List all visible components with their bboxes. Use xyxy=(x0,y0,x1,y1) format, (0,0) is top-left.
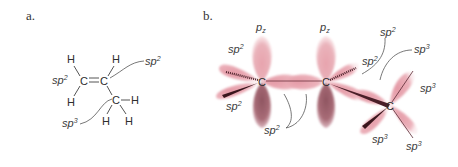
atom-h: H xyxy=(125,115,133,127)
atom-h: H xyxy=(131,94,139,106)
label-sp3-right: sp3 xyxy=(420,82,436,94)
panel-a: a. H H C C H C H H H xyxy=(26,8,161,129)
atom-h: H xyxy=(112,53,120,65)
leader-sp2-to-c2-lobe xyxy=(286,94,306,128)
label-sp3-top: sp3 xyxy=(414,43,430,55)
label-sp2-top-right: sp2 xyxy=(380,26,396,38)
label-sp2-top-left: sp2 xyxy=(228,43,244,55)
pz-lobe-bottom xyxy=(253,82,271,128)
label-sp3-bottom-left: sp3 xyxy=(372,133,388,145)
panel-b-label: b. xyxy=(203,8,213,23)
atom-c2: C xyxy=(100,75,108,87)
pz-lobe-bottom xyxy=(317,82,335,128)
bond-h-c2 xyxy=(108,66,114,76)
bond-c2-c3-wedge xyxy=(330,84,390,108)
atom-h: H xyxy=(67,96,75,108)
label-sp2-bottom-center: sp2 xyxy=(264,124,280,136)
bond-h-c1-bottom xyxy=(74,86,80,96)
sp2-lobe-left xyxy=(286,75,326,90)
label-pz-right: pz xyxy=(319,21,330,34)
label-pz-left: pz xyxy=(255,21,266,34)
panel-b: b. xyxy=(203,8,436,152)
label-sp2-right: sp2 xyxy=(145,55,161,67)
propene-hybridization-diagram: a. H H C C H C H H H xyxy=(0,0,458,167)
atom-c3: C xyxy=(112,94,120,106)
label-sp3: sp3 xyxy=(62,117,78,129)
bond-c3-h-bottom-left xyxy=(107,105,112,114)
bond-c3-h-bottom-right xyxy=(120,105,126,114)
label-sp2-bottom-left: sp2 xyxy=(226,100,242,112)
atom-c1: C xyxy=(258,76,266,88)
leader-sp2-to-c1-lobe xyxy=(284,94,291,128)
label-sp2-left: sp2 xyxy=(52,74,68,86)
atom-c3: C xyxy=(386,100,394,112)
atom-c1: C xyxy=(80,75,88,87)
label-sp3-bottom-right: sp3 xyxy=(406,140,422,152)
atom-c2: C xyxy=(322,76,330,88)
atom-h: H xyxy=(67,53,75,65)
atom-h: H xyxy=(102,115,110,127)
sp3-lobe-lower-right xyxy=(390,105,417,134)
label-sp2-right-of-c2: sp2 xyxy=(362,55,378,67)
panel-a-label: a. xyxy=(26,8,35,23)
